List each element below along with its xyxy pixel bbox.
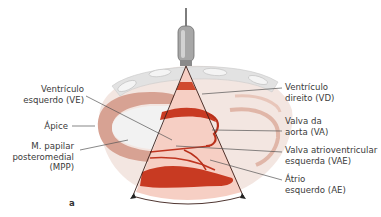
label-line: esquerda (VAE) (285, 156, 377, 167)
label-line: Valva da (285, 116, 328, 127)
label-right-ventricle: Ventrículo direito (VD) (285, 82, 334, 103)
label-line: (MPP) (0, 162, 74, 173)
label-line: direito (VD) (285, 93, 334, 104)
label-line: posteromedial (0, 152, 74, 163)
label-line: Ventrículo (0, 84, 84, 95)
label-line: M. papilar (0, 141, 74, 152)
label-left-atrium: Átrio esquerdo (AE) (285, 174, 346, 195)
label-line: Valva atrioventricular (285, 145, 377, 156)
panel-letter: a (69, 198, 75, 208)
label-apex: Ápice (0, 121, 68, 132)
label-line: aorta (VA) (285, 127, 328, 138)
label-line: Átrio (285, 174, 346, 185)
label-aortic-valve: Valva da aorta (VA) (285, 116, 328, 137)
label-line: Ventrículo (285, 82, 334, 93)
label-posteromedial-papillary-muscle: M. papilar posteromedial (MPP) (0, 141, 74, 173)
label-line: Ápice (0, 121, 68, 132)
label-mitral-valve: Valva atrioventricular esquerda (VAE) (285, 145, 377, 166)
label-line: esquerdo (VE) (0, 95, 84, 106)
label-left-ventricle: Ventrículo esquerdo (VE) (0, 84, 84, 105)
ultrasound-probe (178, 8, 194, 66)
label-line: esquerdo (AE) (285, 185, 346, 196)
